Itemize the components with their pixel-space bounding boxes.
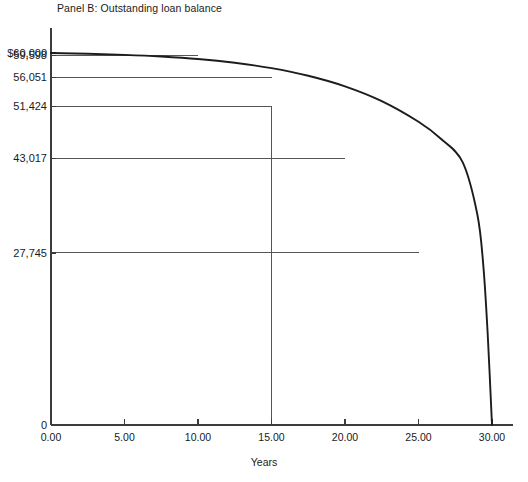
x-axis-title: Years [0,456,528,468]
x-axis-tick-label: 10.00 [185,431,211,443]
chart-figure: Panel B: Outstanding loan balance $60,00… [0,0,528,482]
y-axis-tick-label: 51,424 [13,100,47,112]
y-axis-tick-label: 43,017 [13,152,47,164]
x-axis-tick-label: 15.00 [258,431,284,443]
x-axis-tick-label: 0.00 [41,431,61,443]
y-axis-tick-label: 0 [41,419,47,431]
x-axis-tick-label: 20.00 [332,431,358,443]
plot-canvas [0,0,528,482]
x-axis-tick-label: 30.00 [479,431,505,443]
x-axis-tick-label: 5.00 [114,431,134,443]
y-axis-tick-label: 27,745 [13,247,47,259]
axes-group [51,28,513,425]
reference-lines-group [51,55,419,425]
y-axis-tick-marks [51,53,56,253]
x-axis-tick-marks [125,419,493,425]
y-axis-tick-label: 56,051 [13,71,47,83]
y-axis-tick-label: 59,598 [13,49,47,61]
x-axis-tick-label: 25.00 [405,431,431,443]
